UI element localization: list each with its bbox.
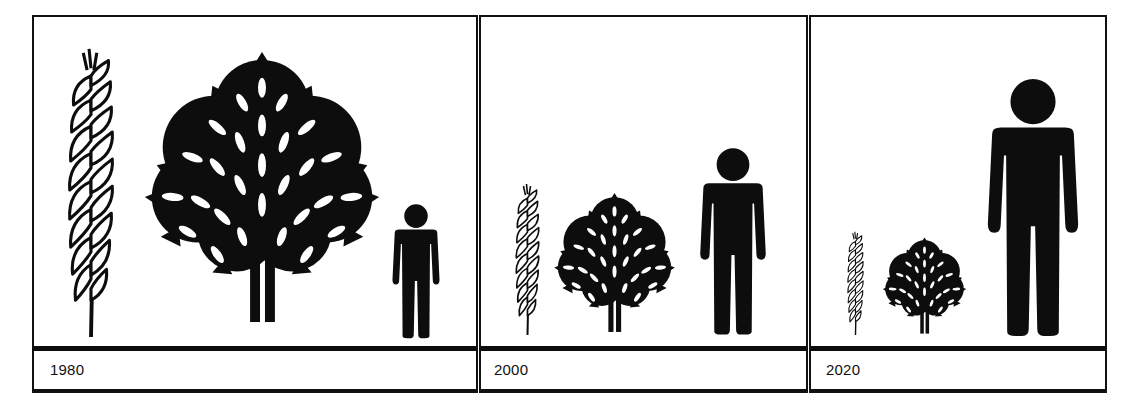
person-icon: [694, 146, 772, 336]
person-icon: [388, 203, 444, 339]
panel-separator-2: [806, 15, 811, 393]
tree-icon: [882, 236, 967, 335]
panel-separator-1: [476, 15, 481, 393]
panel-year-label: 2020: [826, 361, 860, 378]
panel-year-label: 1980: [50, 361, 84, 378]
panel-year-label: 2000: [494, 361, 528, 378]
label-divider: [32, 346, 1107, 351]
wheat-ear-icon: [845, 231, 866, 335]
tree-icon: [553, 191, 676, 334]
tree-icon: [142, 48, 382, 326]
person-icon: [979, 78, 1087, 336]
wheat-ear-icon: [511, 183, 544, 335]
wheat-ear-icon: [62, 45, 120, 339]
